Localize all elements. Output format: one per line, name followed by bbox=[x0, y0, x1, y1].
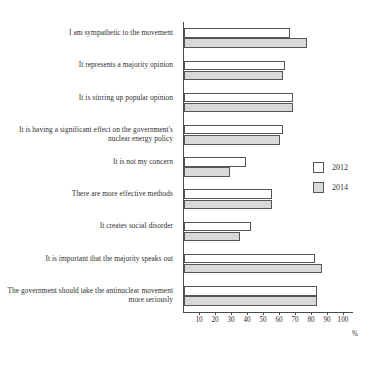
tick-mark bbox=[295, 312, 296, 315]
tick-mark bbox=[263, 312, 264, 315]
category-axis-labels: I am sympathetic to the movementIt repre… bbox=[0, 22, 178, 312]
bar-group bbox=[184, 222, 344, 242]
tick-mark bbox=[215, 312, 216, 315]
bar-2012 bbox=[184, 222, 251, 232]
legend-item-2014: 2014 bbox=[313, 180, 383, 200]
bar-2012 bbox=[184, 61, 285, 71]
tick-label: 20 bbox=[211, 316, 218, 325]
x-axis-unit-label: % bbox=[352, 330, 358, 338]
category-label: There are more effective methods bbox=[0, 189, 173, 198]
tick-label: 10 bbox=[195, 316, 202, 325]
bar-2014 bbox=[184, 167, 230, 177]
tick-mark bbox=[279, 312, 280, 315]
category-label: I am sympathetic to the movement bbox=[0, 28, 173, 37]
tick-label: 40 bbox=[243, 316, 250, 325]
tick-mark bbox=[327, 312, 328, 315]
category-label: The government should take the antinucle… bbox=[0, 286, 173, 304]
bar-2014 bbox=[184, 264, 322, 274]
tick-label: 50 bbox=[259, 316, 266, 325]
bar-group bbox=[184, 93, 344, 113]
tick-mark bbox=[247, 312, 248, 315]
bar-2014 bbox=[184, 71, 283, 81]
bar-2012 bbox=[184, 189, 272, 199]
bar-2012 bbox=[184, 28, 290, 38]
tick-label: 30 bbox=[227, 316, 234, 325]
category-label: It represents a majority opinion bbox=[0, 60, 173, 69]
category-label: It is important that the majority speaks… bbox=[0, 254, 173, 263]
bar-2014 bbox=[184, 296, 317, 306]
bar-2014 bbox=[184, 135, 280, 145]
bar-2012 bbox=[184, 157, 246, 167]
bar-2012 bbox=[184, 125, 283, 135]
legend-item-2012: 2012 bbox=[313, 160, 383, 180]
bar-2014 bbox=[184, 103, 293, 113]
tick-label: 60 bbox=[275, 316, 282, 325]
bar-group bbox=[184, 125, 344, 145]
bar-2014 bbox=[184, 200, 272, 210]
legend-swatch-2014-icon bbox=[313, 182, 324, 193]
legend-swatch-2012-icon bbox=[313, 162, 324, 173]
bar-group bbox=[184, 28, 344, 48]
category-label: It is stirring up popular opinion bbox=[0, 93, 173, 102]
tick-mark bbox=[343, 312, 344, 315]
bar-2012 bbox=[184, 93, 293, 103]
bar-group bbox=[184, 254, 344, 274]
tick-mark bbox=[231, 312, 232, 315]
bar-2012 bbox=[184, 254, 315, 264]
bar-2014 bbox=[184, 38, 307, 48]
x-axis-ticks: 102030405060708090100 bbox=[183, 312, 363, 336]
tick-label: 90 bbox=[323, 316, 330, 325]
bar-2014 bbox=[184, 232, 240, 242]
category-label: It creates social disorder bbox=[0, 221, 173, 230]
tick-label: 100 bbox=[338, 316, 349, 325]
tick-mark bbox=[199, 312, 200, 315]
bar-chart: I am sympathetic to the movementIt repre… bbox=[0, 0, 391, 365]
category-label: It is not my concern bbox=[0, 157, 173, 166]
bar-group bbox=[184, 61, 344, 81]
tick-mark bbox=[311, 312, 312, 315]
chart-legend: 2012 2014 bbox=[313, 160, 383, 200]
bar-group bbox=[184, 286, 344, 306]
legend-label-2014: 2014 bbox=[332, 182, 348, 193]
legend-label-2012: 2012 bbox=[332, 162, 348, 173]
bar-2012 bbox=[184, 286, 317, 296]
tick-label: 80 bbox=[307, 316, 314, 325]
tick-label: 70 bbox=[291, 316, 298, 325]
category-label: It is having a significant effect on the… bbox=[0, 125, 173, 143]
